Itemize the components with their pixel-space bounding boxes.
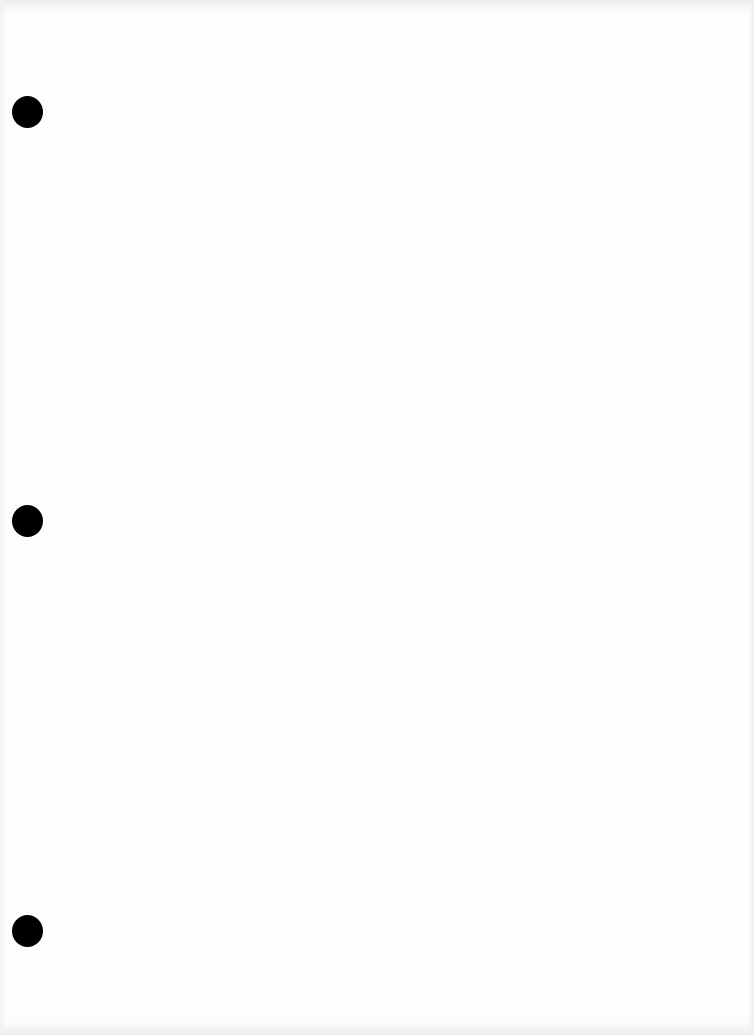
blank-page	[0, 0, 754, 1035]
scan-edge-left	[0, 0, 6, 1035]
punch-hole-middle	[12, 505, 43, 537]
scan-edge-top	[0, 0, 754, 14]
scan-edge-bottom	[0, 1021, 754, 1035]
scan-edge-right	[748, 0, 754, 1035]
punch-hole-top	[12, 96, 43, 128]
punch-hole-bottom	[12, 915, 43, 947]
